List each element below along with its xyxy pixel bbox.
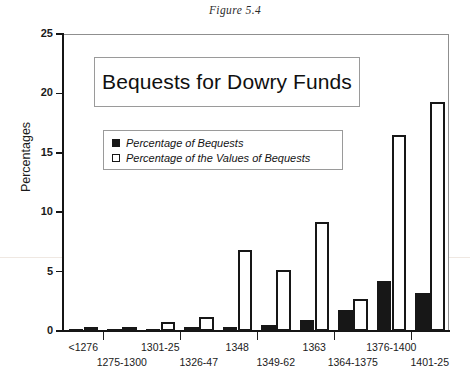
bar-values-1349-62 — [276, 270, 291, 331]
chart-legend: Percentage of BequestsPercentage of the … — [103, 130, 343, 170]
x-axis-tick — [334, 332, 336, 340]
bar-values-1363 — [315, 222, 330, 331]
legend-item: Percentage of Bequests — [112, 135, 336, 150]
bar-bequests-1363 — [300, 320, 315, 331]
bar-bequests-1349-62 — [261, 325, 276, 331]
bar-bequests-1376-1400 — [377, 281, 392, 331]
bar-values-1364-1375 — [353, 299, 368, 331]
y-axis-tick-label: 0 — [19, 324, 53, 336]
y-axis-tick — [56, 33, 63, 35]
y-axis-tick-label: 5 — [19, 265, 53, 277]
bar-bequests-<1276 — [69, 329, 84, 331]
x-axis-label: 1363 — [303, 341, 326, 353]
bar-values-<1276 — [84, 327, 99, 331]
x-axis-label: 1376-1400 — [366, 341, 416, 353]
bar-bequests-1401-25 — [415, 293, 430, 331]
chart-title-box: Bequests for Dowry Funds — [94, 57, 360, 107]
bar-values-1301-25 — [161, 322, 176, 332]
x-axis-tick — [180, 332, 182, 340]
bar-values-1348 — [238, 250, 253, 331]
bar-bequests-1301-25 — [146, 329, 161, 331]
y-axis-tick — [56, 211, 63, 213]
y-axis-tick-label: 25 — [19, 27, 53, 39]
x-axis-label: 1401-25 — [410, 356, 449, 368]
legend-label: Percentage of Bequests — [126, 137, 243, 149]
x-axis-label: 1349-62 — [256, 356, 295, 368]
x-axis-tick — [411, 332, 413, 340]
x-axis-label: 1326-47 — [179, 356, 218, 368]
bar-bequests-1364-1375 — [338, 310, 353, 331]
x-axis-tick — [103, 332, 105, 340]
y-axis-tick — [56, 93, 63, 95]
legend-item: Percentage of the Values of Bequests — [112, 150, 336, 165]
bar-bequests-1326-47 — [184, 327, 199, 331]
legend-label: Percentage of the Values of Bequests — [126, 152, 310, 164]
legend-swatch-icon — [112, 154, 120, 162]
y-axis-title: Percentages — [19, 87, 33, 227]
y-axis-tick — [56, 271, 63, 273]
y-axis-tick — [56, 330, 63, 332]
chart-title: Bequests for Dowry Funds — [102, 70, 352, 94]
legend-swatch-icon — [112, 139, 120, 147]
x-axis-label: 1348 — [226, 341, 249, 353]
bar-values-1275-1300 — [122, 327, 137, 331]
bar-values-1401-25 — [430, 102, 445, 331]
x-axis-label: 1301-25 — [141, 341, 180, 353]
bar-values-1326-47 — [199, 317, 214, 331]
x-axis-label: 1275-1300 — [97, 356, 147, 368]
x-axis-tick — [257, 332, 259, 340]
bar-bequests-1348 — [223, 327, 238, 331]
y-axis-tick — [56, 152, 63, 154]
bar-bequests-1275-1300 — [107, 329, 122, 331]
x-axis-label: <1276 — [69, 341, 99, 353]
bar-values-1376-1400 — [392, 135, 407, 331]
x-axis-label: 1364-1375 — [328, 356, 378, 368]
bar-chart: 0510152025 Percentages <12761275-1300130… — [0, 0, 470, 381]
